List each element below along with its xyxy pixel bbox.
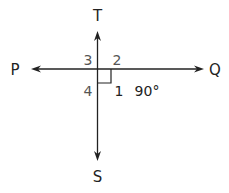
point-label-s: S [93, 168, 103, 186]
angle-label-3: 3 [84, 52, 93, 68]
point-label-t: T [92, 7, 103, 25]
point-label-q: Q [209, 61, 221, 79]
angle-label-2: 2 [113, 52, 122, 68]
point-label-p: P [10, 61, 19, 79]
angle-label-1: 1 [115, 83, 124, 99]
angle-measure-label: 90° [135, 83, 160, 99]
perpendicular-lines-diagram: P Q T S 3 2 4 1 90° [0, 0, 229, 193]
right-angle-marker [98, 69, 112, 83]
angle-label-4: 4 [84, 83, 93, 99]
